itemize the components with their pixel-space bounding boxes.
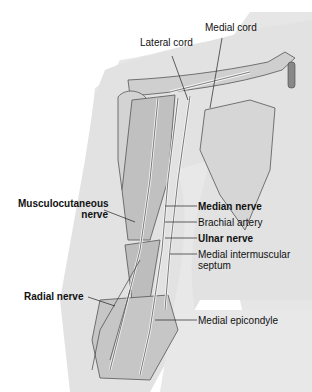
label-lateral-cord: Lateral cord [140,37,193,48]
arm-illustration [0,0,312,392]
label-medial-intermuscular-line1: Medial intermuscular [198,249,290,260]
label-medial-intermuscular-line2: septum [198,260,231,271]
label-brachial-artery: Brachial artery [198,217,262,228]
label-musculocutaneous-line2: nerve [18,209,108,220]
label-radial-nerve: Radial nerve [24,291,83,302]
label-median-nerve: Median nerve [198,201,262,212]
label-medial-epicondyle: Medial epicondyle [198,315,278,326]
label-ulnar-nerve: Ulnar nerve [198,233,253,244]
label-musculocutaneous-line1: Musculocutaneous [18,198,108,209]
label-medial-cord: Medial cord [205,22,257,33]
anatomy-diagram: Medial cord Lateral cord Musculocutaneou… [0,0,312,392]
